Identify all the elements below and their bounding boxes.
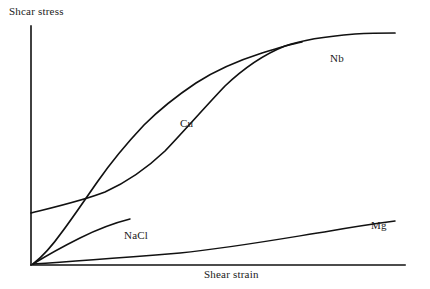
y-axis-label: Shcar stress xyxy=(9,5,64,17)
x-axis-label: Shear strain xyxy=(204,268,259,280)
series-label-nacl: NaCl xyxy=(124,229,148,241)
series-label-nb: Nb xyxy=(330,52,344,64)
curve-cu xyxy=(33,42,302,264)
series-label-cu: Cu xyxy=(180,117,193,129)
curve-mg xyxy=(33,221,395,264)
series-label-mg: Mg xyxy=(371,219,387,231)
curve-nacl xyxy=(33,219,130,264)
chart-figure: Shcar stress Shear strain Nb Cu NaCl Mg xyxy=(0,0,430,289)
plot-area xyxy=(0,0,430,289)
